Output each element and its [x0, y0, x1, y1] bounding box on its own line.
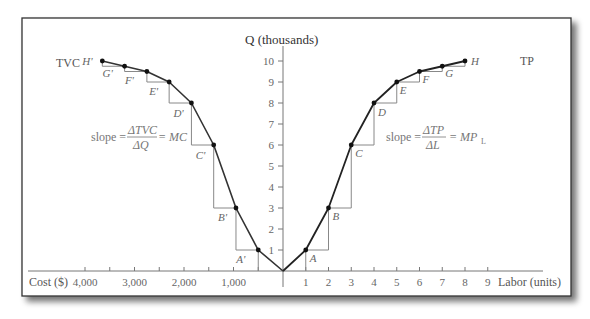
cost-axis-title: Cost ($): [29, 275, 68, 289]
tvc-point-label: G': [103, 67, 114, 79]
tp-point-label: D: [377, 106, 386, 118]
mpl-formula-numerator: ΔTP: [422, 123, 445, 137]
mpl-formula-prefix: slope =: [386, 130, 424, 144]
tvc-point: [211, 143, 216, 148]
y-tick-label: 1: [269, 244, 275, 256]
y-tick-label: 7: [269, 118, 275, 130]
labor-tick-label: 1: [303, 276, 309, 288]
tp-point-label: G: [445, 67, 453, 79]
tp-point: [303, 248, 308, 253]
tvc-point-label: B': [218, 211, 228, 223]
figure-frame: [22, 18, 571, 296]
labor-tick-label: 4: [371, 276, 377, 288]
tvc-point: [256, 248, 261, 253]
tvc-point: [100, 59, 105, 64]
tp-point: [372, 101, 377, 106]
tp-point: [394, 80, 399, 85]
tvc-point-label: D': [172, 107, 184, 119]
tp-point-label: A: [309, 252, 317, 264]
labor-axis-title: Labor (units): [498, 275, 561, 289]
tp-point: [326, 206, 331, 211]
tp-point-label: F: [422, 73, 430, 85]
tvc-point: [167, 80, 172, 85]
cost-tick-label: 1,000: [221, 276, 246, 288]
y-tick-label: 6: [269, 139, 275, 151]
cost-tick-label: 2,000: [172, 276, 197, 288]
y-tick-label: 9: [269, 76, 275, 88]
y-tick-label: 5: [269, 160, 275, 172]
tvc-point: [144, 69, 149, 74]
y-tick-label: 3: [269, 202, 275, 214]
tvc-point-label: A': [235, 253, 246, 265]
labor-tick-label: 7: [440, 276, 446, 288]
labor-tick-label: 5: [394, 276, 400, 288]
mpl-formula-suffix: = MP: [449, 130, 478, 144]
cost-tick-label: 4,000: [73, 276, 98, 288]
mpl-formula-subscript: L: [481, 137, 486, 146]
mc-formula-suffix: = MC: [158, 130, 188, 144]
tvc-point-label: H': [81, 55, 93, 67]
tvc-point: [234, 206, 239, 211]
tp-point-label: C: [355, 147, 363, 159]
tp-point-label: E: [399, 84, 407, 96]
tp-curve-label: TP: [520, 54, 534, 68]
tvc-point: [189, 101, 194, 106]
y-axis-title: Q (thousands): [245, 32, 318, 47]
tvc-point-label: F': [124, 74, 135, 86]
tvc-point-label: C': [196, 149, 206, 161]
labor-tick-label: 8: [462, 276, 468, 288]
tp-point: [440, 64, 445, 69]
y-tick-label: 8: [269, 97, 275, 109]
mpl-formula-denominator: ΔL: [425, 138, 440, 152]
tp-point-label: B: [333, 210, 340, 222]
mc-formula-prefix: slope =: [91, 130, 129, 144]
production-cost-diagram: 12345678910 123456789 4,0003,0002,0001,0…: [0, 0, 590, 319]
tp-point-label: H: [470, 55, 480, 67]
mc-formula-denominator: ΔQ: [132, 138, 149, 152]
tvc-point-label: E': [148, 85, 159, 97]
labor-tick-label: 2: [326, 276, 332, 288]
y-tick-label: 4: [269, 181, 275, 193]
tvc-curve-label: TVC: [56, 56, 80, 70]
cost-tick-label: 3,000: [122, 276, 147, 288]
y-tick-label: 2: [269, 223, 275, 235]
labor-tick-label: 9: [485, 276, 491, 288]
labor-tick-label: 6: [417, 276, 423, 288]
tvc-point: [122, 64, 127, 69]
tp-point: [417, 69, 422, 74]
tp-point: [349, 143, 354, 148]
labor-tick-label: 3: [349, 276, 355, 288]
y-tick-label: 10: [263, 55, 275, 67]
tp-point: [463, 59, 468, 64]
mc-formula-numerator: ΔTVC: [127, 123, 158, 137]
